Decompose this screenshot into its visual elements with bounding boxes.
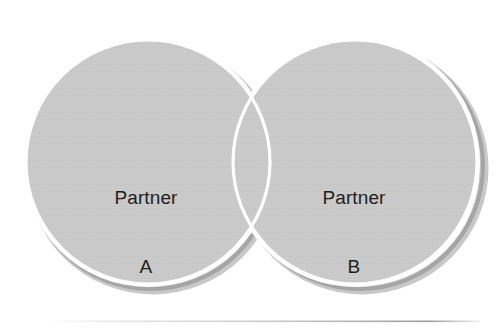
venn-label-a-line2: A: [88, 255, 204, 278]
venn-label-b-line1: Partner: [296, 186, 412, 209]
venn-label-partner-b: Partner B: [296, 140, 412, 324]
venn-label-a-line1: Partner: [88, 186, 204, 209]
venn-label-b-line2: B: [296, 255, 412, 278]
venn-diagram-canvas: Partner A Partner B: [0, 0, 501, 331]
venn-label-partner-a: Partner A: [88, 140, 204, 324]
venn-diagram-svg: [0, 0, 501, 331]
